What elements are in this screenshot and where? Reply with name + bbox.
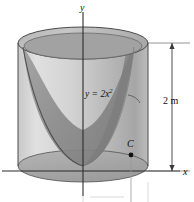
centroid-point-marker: [129, 153, 134, 158]
centroid-point-label: C: [127, 139, 134, 149]
dimension-arrow-top: [169, 43, 174, 49]
curve-equation-label: y = 2x2: [85, 88, 113, 100]
lower-dimension-marks: [83, 182, 148, 202]
x-axis-label: x: [183, 167, 187, 177]
equation-relation: =: [89, 89, 100, 99]
y-axis-label: y: [80, 3, 84, 13]
equation-exponent: 2: [109, 87, 112, 94]
height-dimension-label: 2 m: [163, 96, 178, 106]
height-dimension: [148, 43, 190, 171]
dimension-arrow-bottom: [169, 165, 174, 171]
cylinder-paraboloid-figure: y x y = 2x2 2 m C: [0, 0, 194, 202]
